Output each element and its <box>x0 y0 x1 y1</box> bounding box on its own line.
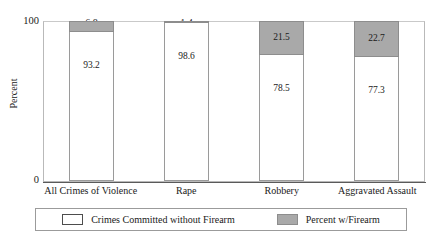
x-axis-label-all-crimes-of-violence: All Crimes of Violence <box>43 185 138 196</box>
bar-value-label-without-firearm: 78.5 <box>260 83 303 93</box>
bar-segment-with-firearm[interactable] <box>69 21 114 32</box>
bar-segment-with-firearm[interactable]: 22.7 <box>354 21 399 57</box>
bar-segment-with-firearm[interactable]: 21.5 <box>259 21 304 55</box>
bar-group: 6.8 93.2 1.4 98.6 <box>44 22 424 181</box>
chart-legend: Crimes Committed without Firearm Percent… <box>35 208 407 231</box>
bar-value-label-without-firearm: 77.3 <box>355 85 398 95</box>
x-axis-label-rape: Rape <box>139 185 234 196</box>
bar-value-label-with-firearm: 22.7 <box>368 34 385 44</box>
legend-item-with-firearm[interactable]: Percent w/Firearm <box>277 214 380 225</box>
y-axis-title: Percent <box>8 59 19 129</box>
y-axis-tick-0: 0 <box>6 174 39 185</box>
x-axis-label-robbery: Robbery <box>234 185 329 196</box>
x-axis-baseline <box>43 182 426 183</box>
stacked-bar[interactable]: 22.7 77.3 <box>354 21 399 181</box>
stacked-bar[interactable]: 98.6 <box>164 21 209 181</box>
bar-segment-without-firearm[interactable]: 78.5 <box>259 55 304 181</box>
stacked-bar[interactable]: 21.5 78.5 <box>259 21 304 181</box>
bar-column-all-crimes-of-violence: 6.8 93.2 <box>69 22 114 181</box>
bar-column-rape: 1.4 98.6 <box>164 22 209 181</box>
stacked-bar[interactable]: 93.2 <box>69 21 114 181</box>
legend-label-with-firearm: Percent w/Firearm <box>306 214 380 225</box>
bar-value-label-without-firearm: 93.2 <box>70 60 113 70</box>
y-axis-tick-100: 100 <box>6 15 39 26</box>
bar-column-robbery: 21.5 78.5 <box>259 22 304 181</box>
legend-swatch-gray-icon <box>277 214 298 225</box>
legend-label-without-firearm: Crimes Committed without Firearm <box>91 214 235 225</box>
bar-segment-without-firearm[interactable]: 98.6 <box>164 23 209 181</box>
bar-segment-without-firearm[interactable]: 77.3 <box>354 57 399 181</box>
legend-item-without-firearm[interactable]: Crimes Committed without Firearm <box>62 214 235 225</box>
chart-figure: Percent 100 0 6.8 93.2 1.4 98.6 <box>0 0 431 244</box>
plot-area: 6.8 93.2 1.4 98.6 <box>43 21 425 182</box>
legend-swatch-white-icon <box>62 214 83 225</box>
x-axis-label-aggravated-assault: Aggravated Assault <box>330 185 425 196</box>
bar-segment-without-firearm[interactable]: 93.2 <box>69 32 114 181</box>
x-axis-labels: All Crimes of Violence Rape Robbery Aggr… <box>43 185 425 196</box>
bar-value-label-with-firearm: 21.5 <box>273 33 290 43</box>
bar-column-aggravated-assault: 22.7 77.3 <box>354 22 399 181</box>
bar-value-label-without-firearm: 98.6 <box>165 51 208 61</box>
